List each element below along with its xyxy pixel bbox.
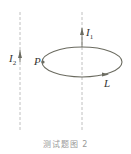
label-i1: I1 [86,26,93,41]
figure-caption: 测试题图 2 [0,138,131,149]
point-p-icon [41,60,44,63]
diagram-canvas [0,0,131,154]
label-i1-sub: 1 [90,33,94,41]
label-l: L [104,77,110,89]
label-i2-sub: 2 [13,59,17,67]
label-i2: I2 [9,52,16,67]
label-p: P [34,55,41,67]
arrow-i2-icon [18,51,22,58]
arrow-i1-icon [80,28,84,35]
